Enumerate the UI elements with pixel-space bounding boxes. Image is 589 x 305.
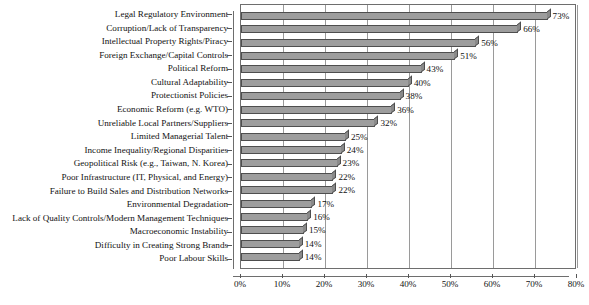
category-label-row: Protectionist Policies: [0, 89, 232, 103]
bar-row: 24%: [241, 143, 575, 156]
x-tick-label: 10%: [274, 279, 291, 289]
bar: 17%: [241, 200, 312, 208]
category-label: Economic Reform (e.g. WTO): [117, 105, 228, 115]
bar-value-label: 23%: [343, 158, 360, 168]
bar-value-label: 56%: [481, 37, 498, 47]
bar-chart: Legal Regulatory EnvironmentCorruption/L…: [0, 0, 589, 305]
category-label-row: Poor Infrastructure (IT, Physical, and E…: [0, 171, 232, 185]
category-label: Protectionist Policies: [151, 91, 228, 101]
category-tick-mark: [227, 164, 232, 165]
category-label-row: Poor Labour Skills: [0, 252, 232, 266]
bar: 24%: [241, 146, 342, 154]
category-label-row: Unreliable Local Partners/Suppliers: [0, 117, 232, 131]
category-tick-mark: [227, 218, 232, 219]
bar: 25%: [241, 133, 346, 141]
bar-row: 15%: [241, 224, 575, 237]
bar-row: 22%: [241, 170, 575, 183]
bar-row: 56%: [241, 36, 575, 49]
category-label-row: Economic Reform (e.g. WTO): [0, 103, 232, 117]
bars-layer: 73%66%56%51%43%40%38%36%32%25%24%23%22%2…: [241, 9, 575, 264]
plot-3d-side-wall: [233, 11, 240, 269]
bar-value-label: 36%: [397, 104, 414, 114]
x-tick-label: 70%: [526, 279, 543, 289]
bar-row: 14%: [241, 237, 575, 250]
bar-row: 40%: [241, 76, 575, 89]
category-tick-mark: [227, 123, 232, 124]
bar-value-label: 17%: [317, 198, 334, 208]
category-label: Difficulty in Creating Strong Brands: [95, 241, 228, 251]
bar-value-label: 51%: [460, 51, 477, 61]
bar-value-label: 73%: [553, 11, 570, 21]
category-label: Political Reform: [168, 64, 228, 74]
category-tick-mark: [227, 28, 232, 29]
category-label-row: Failure to Build Sales and Distribution …: [0, 185, 232, 199]
bar: 51%: [241, 52, 455, 60]
category-label-row: Geopolitical Risk (e.g., Taiwan, N. Kore…: [0, 157, 232, 171]
category-label: Intellectual Property Rights/Piracy: [102, 37, 228, 47]
plot-wrapper: 73%66%56%51%43%40%38%36%32%25%24%23%22%2…: [233, 4, 577, 274]
bar: 14%: [241, 253, 300, 261]
bar-row: 73%: [241, 9, 575, 22]
bar-row: 36%: [241, 103, 575, 116]
bar-row: 32%: [241, 116, 575, 129]
x-tick-label: 0%: [234, 279, 246, 289]
category-label: Cultural Adaptability: [151, 78, 228, 88]
category-tick-mark: [227, 259, 232, 260]
bar-value-label: 24%: [347, 145, 364, 155]
category-label: Lack of Quality Controls/Modern Manageme…: [12, 214, 228, 224]
category-tick-mark: [227, 82, 232, 83]
bar-row: 14%: [241, 251, 575, 264]
category-label: Failure to Build Sales and Distribution …: [50, 187, 228, 197]
category-label: Foreign Exchange/Capital Controls: [99, 51, 228, 61]
category-label: Environmental Degradation: [127, 200, 228, 210]
category-label-row: Lack of Quality Controls/Modern Manageme…: [0, 212, 232, 226]
x-tick-mark: [240, 274, 241, 278]
bar: 22%: [241, 173, 333, 181]
category-tick-mark: [227, 136, 232, 137]
x-tick-label: 80%: [568, 279, 585, 289]
category-label: Macroeconomic Instability: [130, 227, 228, 237]
category-label-row: Legal Regulatory Environment: [0, 8, 232, 22]
category-label-row: Environmental Degradation: [0, 198, 232, 212]
bar-row: 66%: [241, 22, 575, 35]
bar-row: 25%: [241, 130, 575, 143]
bar: 73%: [241, 12, 548, 20]
x-tick-label: 60%: [484, 279, 501, 289]
category-label: Geopolitical Risk (e.g., Taiwan, N. Kore…: [74, 159, 228, 169]
bar: 40%: [241, 79, 409, 87]
category-label: Corruption/Lack of Transparency: [106, 24, 228, 34]
category-axis: Legal Regulatory EnvironmentCorruption/L…: [0, 8, 232, 266]
x-tick-mark: [534, 274, 535, 278]
bar-value-label: 22%: [338, 172, 355, 182]
bar-row: 43%: [241, 63, 575, 76]
plot-area: 73%66%56%51%43%40%38%36%32%25%24%23%22%2…: [240, 4, 576, 269]
category-tick-mark: [227, 69, 232, 70]
x-tick-label: 20%: [316, 279, 333, 289]
bar: 56%: [241, 39, 476, 47]
category-label-row: Political Reform: [0, 62, 232, 76]
bar: 22%: [241, 186, 333, 194]
bar-row: 51%: [241, 49, 575, 62]
x-tick-mark: [408, 274, 409, 278]
bar-row: 23%: [241, 157, 575, 170]
category-label-row: Intellectual Property Rights/Piracy: [0, 35, 232, 49]
bar-value-label: 66%: [523, 24, 540, 34]
category-label-row: Difficulty in Creating Strong Brands: [0, 239, 232, 253]
category-tick-mark: [227, 232, 232, 233]
x-tick-mark: [576, 274, 577, 278]
bar-value-label: 14%: [305, 239, 322, 249]
bar: 66%: [241, 25, 518, 33]
bar-row: 16%: [241, 210, 575, 223]
category-label: Legal Regulatory Environment: [115, 10, 228, 20]
bar: 43%: [241, 65, 422, 73]
category-tick-mark: [227, 191, 232, 192]
value-axis: 0%10%20%30%40%50%60%70%80%: [240, 274, 576, 298]
bar-value-label: 38%: [406, 91, 423, 101]
category-tick-mark: [227, 245, 232, 246]
category-label-row: Income Inequality/Regional Disparities: [0, 144, 232, 158]
category-label: Poor Labour Skills: [159, 254, 228, 264]
category-tick-mark: [227, 204, 232, 205]
bar: 32%: [241, 119, 375, 127]
category-tick-mark: [227, 177, 232, 178]
category-tick-mark: [227, 109, 232, 110]
